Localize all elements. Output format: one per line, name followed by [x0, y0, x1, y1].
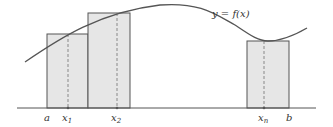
point-x1	[67, 107, 70, 110]
label-b: b	[286, 112, 292, 123]
label-x2-sub: 2	[116, 117, 122, 125]
rectangle-n	[247, 41, 289, 108]
label-xn: xn	[258, 112, 269, 125]
curve-label: y = f(x)	[211, 8, 250, 19]
label-xn-sub: n	[264, 117, 269, 125]
point-x2	[116, 107, 119, 110]
rectangle-2	[88, 13, 130, 108]
point-xn	[263, 107, 266, 110]
label-x2: x2	[111, 112, 122, 125]
label-a: a	[44, 112, 50, 123]
label-x1-sub: 1	[68, 117, 72, 125]
riemann-sum-diagram: y = f(x) a x1 x2 xn b	[0, 0, 333, 127]
label-x1: x1	[62, 112, 72, 125]
